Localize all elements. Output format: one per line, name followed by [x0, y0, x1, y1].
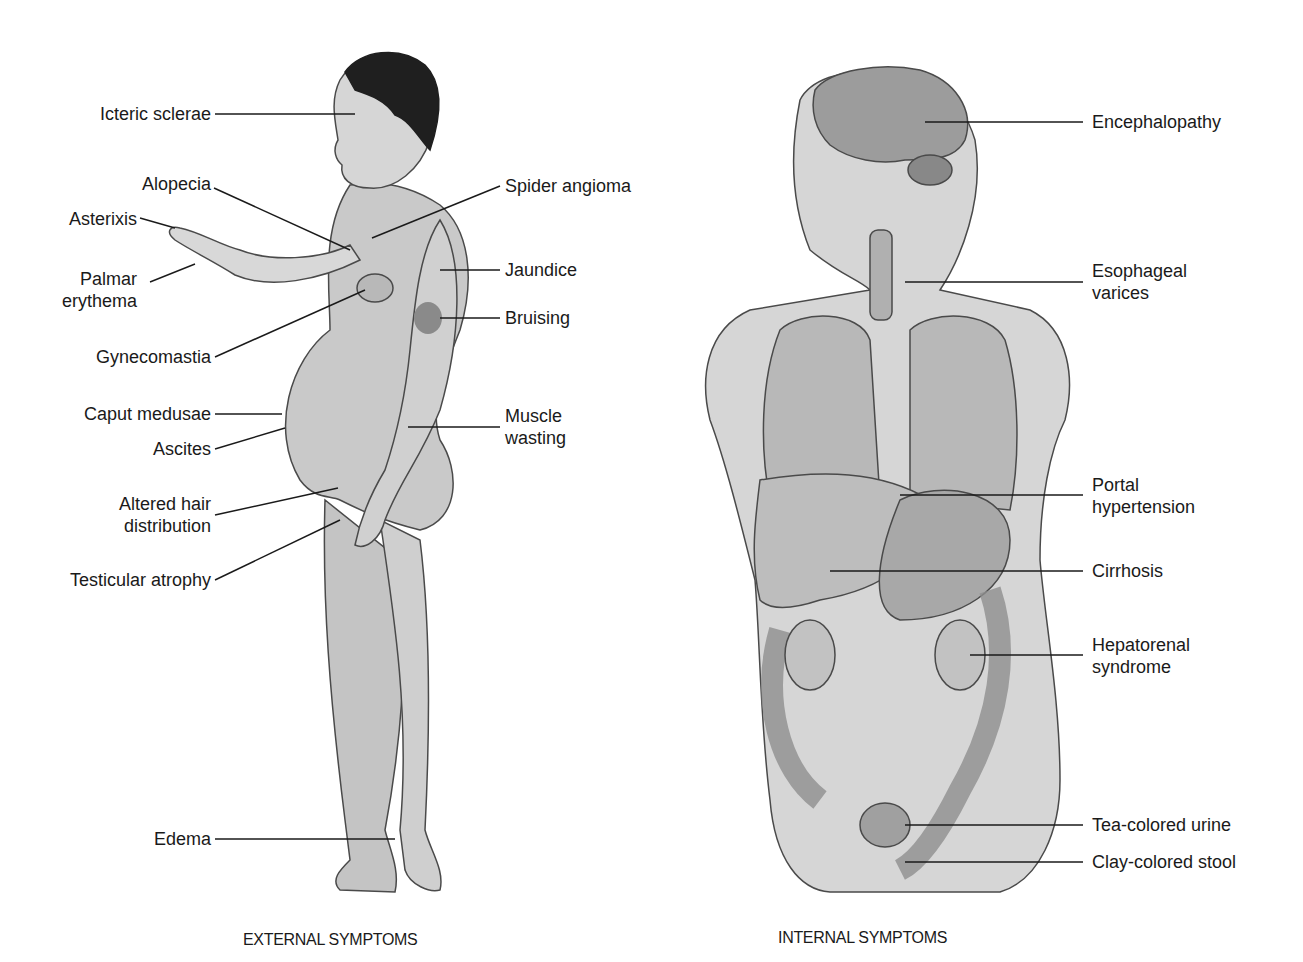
- label-tea-colored-urine: Tea-colored urine: [1092, 814, 1231, 836]
- label-hepato-line2: syndrome: [1092, 656, 1190, 678]
- label-portal-line1: Portal: [1092, 474, 1195, 496]
- label-alopecia: Alopecia: [142, 173, 211, 195]
- label-esophageal-varices: Esophageal varices: [1092, 260, 1187, 304]
- label-hepatorenal-syndrome: Hepatorenal syndrome: [1092, 634, 1190, 678]
- label-gynecomastia: Gynecomastia: [96, 346, 211, 368]
- label-cirrhosis: Cirrhosis: [1092, 560, 1163, 582]
- label-testicular-atrophy: Testicular atrophy: [70, 569, 211, 591]
- internal-body-figure: [706, 67, 1070, 892]
- caption-external-symptoms: EXTERNAL SYMPTOMS: [243, 931, 418, 949]
- label-altered-line2: distribution: [119, 515, 211, 537]
- label-palmar-line1: Palmar: [62, 268, 137, 290]
- label-spider-angioma: Spider angioma: [505, 175, 631, 197]
- label-ascites: Ascites: [153, 438, 211, 460]
- label-hepato-line1: Hepatorenal: [1092, 634, 1190, 656]
- caption-internal-symptoms: INTERNAL SYMPTOMS: [778, 929, 947, 947]
- label-palmar-erythema: Palmar erythema: [62, 268, 137, 312]
- label-encephalopathy: Encephalopathy: [1092, 111, 1221, 133]
- label-muscle-wasting: Muscle wasting: [505, 405, 566, 449]
- label-asterixis: Asterixis: [69, 208, 137, 230]
- label-icteric-sclerae: Icteric sclerae: [100, 103, 211, 125]
- label-esoph-line2: varices: [1092, 282, 1187, 304]
- label-muscle-line2: wasting: [505, 427, 566, 449]
- label-jaundice: Jaundice: [505, 259, 577, 281]
- label-portal-hypertension: Portal hypertension: [1092, 474, 1195, 518]
- external-body-figure: [170, 52, 469, 892]
- label-portal-line2: hypertension: [1092, 496, 1195, 518]
- label-altered-line1: Altered hair: [119, 493, 211, 515]
- label-palmar-line2: erythema: [62, 290, 137, 312]
- label-caput-medusae: Caput medusae: [84, 403, 211, 425]
- label-muscle-line1: Muscle: [505, 405, 566, 427]
- label-edema: Edema: [154, 828, 211, 850]
- label-bruising: Bruising: [505, 307, 570, 329]
- label-clay-colored-stool: Clay-colored stool: [1092, 851, 1236, 873]
- label-esoph-line1: Esophageal: [1092, 260, 1187, 282]
- label-altered-hair-distribution: Altered hair distribution: [119, 493, 211, 537]
